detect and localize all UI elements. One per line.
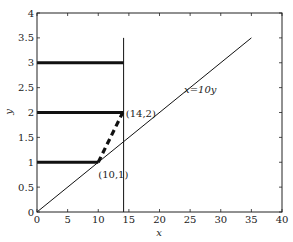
y-tick-label: 1.5 <box>18 132 34 143</box>
x-tick-label: 5 <box>64 214 70 225</box>
y-tick-label: 1 <box>28 157 34 168</box>
x-tick-label: 25 <box>184 214 197 225</box>
y-tick-label: 4 <box>28 8 34 19</box>
x-axis-label: x <box>156 227 162 238</box>
y-tick-label: 0 <box>28 207 34 218</box>
series-layer <box>37 38 251 212</box>
y-tick-label: 2.5 <box>18 82 34 93</box>
x-tick-label: 0 <box>34 214 40 225</box>
y-tick-label: 0.5 <box>18 182 34 193</box>
y-tick-label: 3 <box>28 57 34 68</box>
annotation: (10,1) <box>98 169 128 180</box>
x-tick-label: 30 <box>214 214 227 225</box>
y-axis-label: y <box>3 109 14 116</box>
y-tick-label: 2 <box>28 107 34 118</box>
x-tick-label: 35 <box>245 214 258 225</box>
chart: 051015202530354000.511.522.533.54 (14,2)… <box>0 0 293 242</box>
x-tick-label: 10 <box>92 214 105 225</box>
y-tick-label: 3.5 <box>18 32 34 43</box>
annotation: x=10y <box>184 84 217 95</box>
x-tick-label: 15 <box>123 214 136 225</box>
x-tick-label: 20 <box>153 214 166 225</box>
annotation: (14,2) <box>126 108 156 119</box>
x-tick-label: 40 <box>276 214 289 225</box>
series-path-10-1-14-2- <box>98 113 123 163</box>
annotations-layer: (14,2)(10,1)x=10y <box>98 84 216 181</box>
